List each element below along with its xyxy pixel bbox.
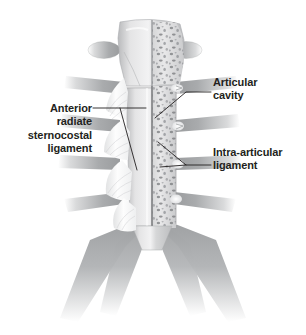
label-intra-articular-ligament: Intra-articular ligament [213, 146, 305, 173]
label-articular-cavity: Articular cavity [213, 76, 305, 103]
manubrium [118, 18, 190, 90]
intra-articular-ligament-joint-5 [170, 195, 182, 204]
label-anterior-radiate-sternocostal-ligament: Anterior radiate sternocostal ligament [4, 102, 92, 156]
anatomy-figure: Anterior radiate sternocostal ligament A… [0, 0, 306, 335]
intra-articular-ligament-joint-4 [172, 160, 184, 169]
